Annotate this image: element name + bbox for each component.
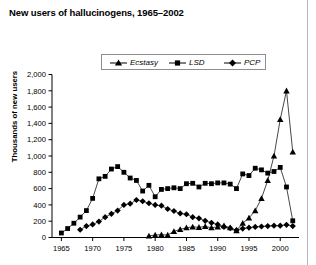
x-tick-label: 2000 <box>272 244 289 253</box>
x-tick-label: 1985 <box>178 244 195 253</box>
y-tick-label: 1,000 <box>27 152 46 161</box>
x-tick-label: 1970 <box>84 244 101 253</box>
x-tick-label: 1975 <box>115 244 132 253</box>
y-tick-label: 200 <box>33 217 46 226</box>
y-axis: 02004006008001,0001,2001,4001,6001,8002,… <box>27 70 52 242</box>
y-tick-label: 1,600 <box>27 103 46 112</box>
x-tick-label: 1995 <box>241 244 258 253</box>
y-tick-label: 800 <box>33 168 46 177</box>
y-tick-label: 1,800 <box>27 87 46 96</box>
x-tick-label: 1990 <box>209 244 226 253</box>
x-axis: 19651970197519801985199019952000 <box>52 238 299 253</box>
chart-plot-area: 02004006008001,0001,2001,4001,6001,8002,… <box>0 0 316 265</box>
y-tick-label: 1,200 <box>27 135 46 144</box>
chart-figure: New users of hallucinogens, 1965–2002 Th… <box>0 0 316 265</box>
data-series-group <box>59 88 296 239</box>
series-ecstasy <box>146 88 296 239</box>
x-tick-label: 1980 <box>147 244 164 253</box>
y-tick-label: 0 <box>42 233 46 242</box>
x-tick-label: 1965 <box>53 244 70 253</box>
y-tick-label: 400 <box>33 201 46 210</box>
y-tick-label: 600 <box>33 184 46 193</box>
y-tick-label: 1,400 <box>27 119 46 128</box>
y-tick-label: 2,000 <box>27 70 46 79</box>
